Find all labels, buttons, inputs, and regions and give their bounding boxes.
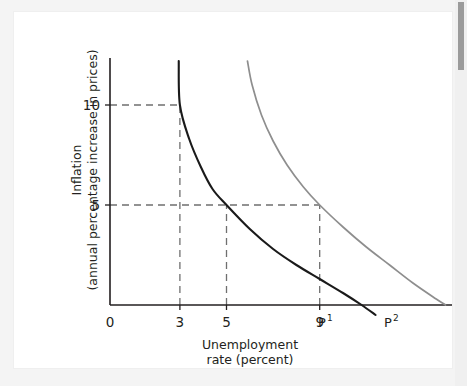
axis-ticks-layer: 0359510 bbox=[83, 97, 324, 330]
y-axis-title-line1: Inflation bbox=[69, 144, 84, 195]
x-axis-title-line1: Unemployment bbox=[202, 337, 298, 352]
x-tick-label-5: 5 bbox=[222, 314, 231, 330]
axis-labels-layer: P1P2 bbox=[318, 313, 399, 330]
x-tick-label-0: 0 bbox=[106, 314, 115, 330]
curve-label-sup-P1: 1 bbox=[327, 313, 333, 323]
curve-label-P1: P bbox=[318, 315, 326, 330]
guide-lines-layer bbox=[110, 105, 320, 305]
curve-P2 bbox=[247, 61, 445, 305]
y-axis-title-line2: (annual percentage increase in prices) bbox=[85, 49, 100, 290]
curves-layer bbox=[179, 61, 446, 315]
axes-layer bbox=[110, 58, 452, 305]
curve-P1 bbox=[179, 61, 376, 315]
x-axis-title-line2: rate (percent) bbox=[207, 352, 294, 367]
curve-label-sup-P2: 2 bbox=[393, 313, 399, 323]
x-tick-label-3: 3 bbox=[176, 314, 185, 330]
curve-label-P2: P bbox=[384, 315, 392, 330]
phillips-curve-chart: 0359510 P1P2 Inflation (annual percentag… bbox=[0, 0, 467, 386]
